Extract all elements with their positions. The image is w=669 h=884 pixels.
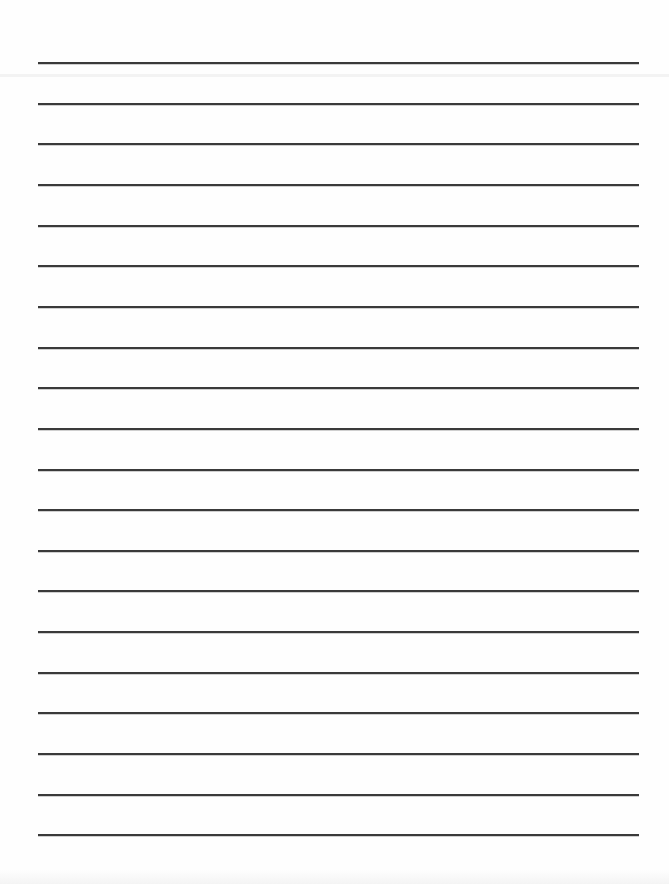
bottom-edge-shading [0, 870, 669, 884]
ruled-line [38, 184, 639, 186]
ruled-line [38, 834, 639, 836]
ruled-line [38, 62, 639, 64]
ruled-line [38, 672, 639, 674]
ruled-line [38, 550, 639, 552]
ruled-line [38, 265, 639, 267]
ruled-line [38, 428, 639, 430]
lined-paper-page [0, 0, 669, 884]
ruled-line [38, 225, 639, 227]
ruled-line [38, 469, 639, 471]
ruled-line [38, 794, 639, 796]
ruled-line [38, 387, 639, 389]
faint-scan-band [0, 74, 669, 77]
ruled-line [38, 631, 639, 633]
ruled-line [38, 347, 639, 349]
ruled-line [38, 103, 639, 105]
ruled-line [38, 590, 639, 592]
ruled-line [38, 143, 639, 145]
ruled-line [38, 753, 639, 755]
ruled-line [38, 306, 639, 308]
ruled-line [38, 712, 639, 714]
ruled-line [38, 509, 639, 511]
